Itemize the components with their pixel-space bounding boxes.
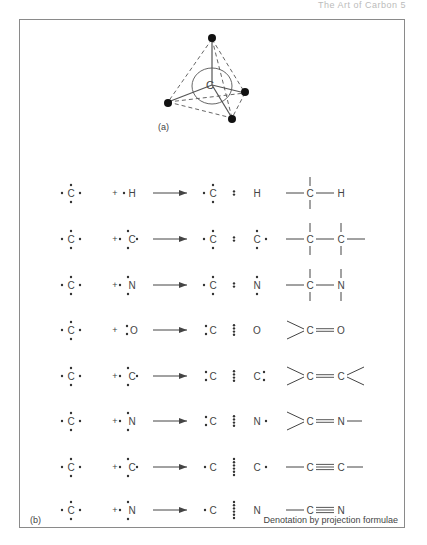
svg-text:C: C xyxy=(209,234,216,245)
svg-text:C: C xyxy=(306,325,313,336)
svg-text:+: + xyxy=(112,280,117,290)
center-carbon: C xyxy=(206,79,214,91)
svg-text:C: C xyxy=(67,234,74,245)
svg-text:C: C xyxy=(253,234,260,245)
svg-text:C: C xyxy=(306,234,313,245)
svg-text:N: N xyxy=(337,280,344,291)
svg-text:C: C xyxy=(67,462,74,473)
svg-text:N: N xyxy=(128,416,135,427)
svg-text:C: C xyxy=(209,416,216,427)
svg-text:O: O xyxy=(337,325,345,336)
svg-text:C: C xyxy=(67,325,74,336)
svg-text:C: C xyxy=(337,462,344,473)
svg-text:C: C xyxy=(253,371,260,382)
svg-text:C: C xyxy=(306,280,313,291)
svg-text:O: O xyxy=(130,325,138,336)
panel-b-label: (b) xyxy=(30,515,41,525)
svg-text:+: + xyxy=(112,462,117,472)
svg-text:N: N xyxy=(337,505,344,516)
svg-text:+: + xyxy=(112,234,117,244)
svg-text:C: C xyxy=(67,371,74,382)
svg-text:C: C xyxy=(337,371,344,382)
svg-text:H: H xyxy=(128,188,135,199)
svg-text:C: C xyxy=(128,234,135,245)
svg-text:C: C xyxy=(306,462,313,473)
svg-text:C: C xyxy=(209,505,216,516)
svg-text:N: N xyxy=(128,280,135,291)
svg-text:C: C xyxy=(209,462,216,473)
svg-text:N: N xyxy=(253,280,260,291)
svg-text:C: C xyxy=(67,505,74,516)
svg-text:C: C xyxy=(209,371,216,382)
svg-text:N: N xyxy=(128,505,135,516)
svg-text:C: C xyxy=(306,188,313,199)
svg-text:C: C xyxy=(67,188,74,199)
svg-text:+: + xyxy=(112,505,117,515)
svg-text:C: C xyxy=(337,234,344,245)
svg-text:N: N xyxy=(253,505,260,516)
svg-text:C: C xyxy=(306,371,313,382)
svg-text:N: N xyxy=(253,416,260,427)
svg-text:C: C xyxy=(209,188,216,199)
svg-text:+: + xyxy=(112,371,117,381)
svg-text:N: N xyxy=(337,416,344,427)
svg-text:H: H xyxy=(253,188,260,199)
svg-text:C: C xyxy=(67,416,74,427)
svg-text:C: C xyxy=(67,280,74,291)
bonding-table: C+HCHCHC+CCCCCC+NCNCNC+OCOCOC+CCCCCC+NCN… xyxy=(61,177,365,520)
svg-text:C: C xyxy=(306,505,313,516)
svg-text:+: + xyxy=(112,416,117,426)
svg-text:C: C xyxy=(128,462,135,473)
svg-text:+: + xyxy=(112,325,117,335)
svg-text:O: O xyxy=(253,325,261,336)
svg-text:C: C xyxy=(128,371,135,382)
svg-text:C: C xyxy=(253,462,260,473)
svg-text:C: C xyxy=(209,325,216,336)
svg-text:+: + xyxy=(112,188,117,198)
svg-text:C: C xyxy=(209,280,216,291)
svg-text:H: H xyxy=(337,188,344,199)
panel-b-footer: Denotation by projection formulae xyxy=(263,515,398,525)
panel-a-label: (a) xyxy=(158,122,169,132)
svg-text:C: C xyxy=(306,416,313,427)
diagram-canvas: C (a) C+HCHCHC+CCCCCC+NCNCNC+OCOCOC+CCCC… xyxy=(0,0,427,545)
